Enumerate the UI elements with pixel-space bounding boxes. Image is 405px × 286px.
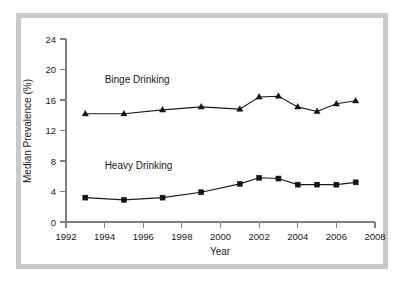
series-line — [85, 178, 355, 200]
x-tick-label: 1998 — [171, 231, 192, 242]
square-marker — [353, 180, 358, 185]
series-layer — [82, 93, 359, 203]
y-axis-title: Median Prevalence (%) — [22, 79, 33, 183]
square-marker — [276, 176, 281, 181]
y-tick-label: 0 — [51, 217, 56, 228]
square-marker — [121, 197, 126, 202]
series-annotations: Binge DrinkingHeavy Drinking — [105, 74, 173, 170]
x-tick-label: 2006 — [326, 231, 347, 242]
y-tick-label: 16 — [45, 95, 56, 106]
triangle-marker — [275, 93, 281, 99]
square-marker — [160, 195, 165, 200]
x-tick-label: 1994 — [94, 231, 115, 242]
triangle-marker — [82, 110, 88, 116]
square-marker — [334, 182, 339, 187]
x-tick-label: 2002 — [249, 231, 270, 242]
y-tick-label: 4 — [51, 186, 56, 197]
x-tick-label: 2000 — [210, 231, 231, 242]
x-axis-title: Year — [210, 246, 231, 257]
x-tick-label: 2004 — [287, 231, 308, 242]
square-marker — [237, 181, 242, 186]
series-heavy-drinking — [83, 175, 358, 202]
triangle-marker — [198, 104, 204, 110]
square-marker — [83, 195, 88, 200]
line-chart-plot: 04812162024 1992199419961998200020022004… — [0, 0, 405, 286]
x-tick-label: 2008 — [364, 231, 385, 242]
y-tick-label: 8 — [51, 156, 56, 167]
y-tick-label: 12 — [45, 125, 56, 136]
square-marker — [315, 182, 320, 187]
square-marker — [257, 175, 262, 180]
triangle-marker — [353, 97, 359, 103]
x-tick-label: 1992 — [55, 231, 76, 242]
chart-figure: 04812162024 1992199419961998200020022004… — [0, 0, 405, 286]
square-marker — [295, 182, 300, 187]
x-tick-label: 1996 — [133, 231, 154, 242]
x-axis-ticks: 199219941996199820002002200420062008 — [55, 222, 385, 242]
series-label-binge-drinking: Binge Drinking — [105, 74, 170, 85]
y-tick-label: 24 — [45, 34, 56, 45]
series-label-heavy-drinking: Heavy Drinking — [105, 160, 173, 171]
y-axis-ticks: 04812162024 — [45, 34, 66, 228]
y-tick-label: 20 — [45, 64, 56, 75]
series-binge-drinking — [82, 93, 359, 116]
square-marker — [199, 190, 204, 195]
